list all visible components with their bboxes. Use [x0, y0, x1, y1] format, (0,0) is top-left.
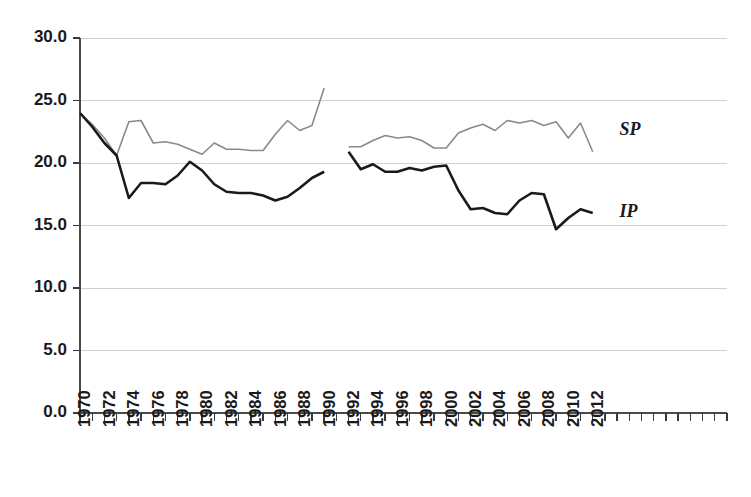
x-axis-tick-label: 1980 [197, 390, 215, 427]
x-axis-tick-label: 1986 [271, 390, 289, 427]
x-axis-tick-label: 2012 [588, 390, 606, 427]
x-axis-tick-label: 1992 [344, 390, 362, 427]
series-label-ip: IP [619, 201, 639, 221]
y-axis-tick-labels: 0.05.010.015.020.025.030.0 [34, 27, 67, 421]
x-axis-tick-label: 1994 [368, 389, 386, 427]
x-axis-tick-label: 1984 [246, 389, 264, 427]
x-axis-tick-label: 1996 [393, 390, 411, 427]
series-line-sp [349, 121, 593, 152]
x-axis-tick-label: 2000 [442, 390, 460, 427]
y-axis-tick-label: 25.0 [34, 90, 67, 109]
x-axis-tick-label: 1988 [295, 390, 313, 427]
y-axis-tick-label: 20.0 [34, 152, 67, 171]
x-axis-tick-label: 1990 [320, 390, 338, 427]
x-axis-tick-label: 2010 [564, 390, 582, 427]
x-axis-tick-label: 1998 [417, 390, 435, 427]
line-chart: 0.05.010.015.020.025.030.0 1970197219741… [0, 0, 751, 497]
series-labels: SPIP [619, 119, 642, 222]
x-axis-tick-label: 2006 [515, 390, 533, 427]
series-line-sp [80, 88, 324, 156]
y-axis-tick-label: 10.0 [34, 277, 67, 296]
x-axis-tick-label: 1974 [124, 389, 142, 427]
x-axis-tick-label: 1978 [173, 390, 191, 427]
chart-canvas: 0.05.010.015.020.025.030.0 1970197219741… [0, 0, 751, 497]
y-axis-tick-label: 15.0 [34, 215, 67, 234]
data-series [80, 88, 593, 229]
x-axis-tick-label: 1970 [75, 390, 93, 427]
x-axis-tick-label: 1982 [222, 390, 240, 427]
x-axis-tick-label: 2008 [539, 390, 557, 427]
gridlines [80, 38, 727, 413]
x-axis-tick-labels: 1970197219741976197819801982198419861988… [75, 389, 606, 427]
y-axis-tick-label: 5.0 [43, 340, 67, 359]
x-axis-tick-label: 1972 [100, 390, 118, 427]
x-axis-tick-label: 2004 [490, 389, 508, 427]
y-axis-tick-label: 0.0 [43, 402, 67, 421]
x-axis-tick-label: 1976 [149, 390, 167, 427]
series-line-ip [80, 113, 324, 201]
x-axis-tick-label: 2002 [466, 390, 484, 427]
y-axis [73, 38, 80, 413]
y-axis-tick-label: 30.0 [34, 27, 67, 46]
series-label-sp: SP [620, 119, 642, 139]
